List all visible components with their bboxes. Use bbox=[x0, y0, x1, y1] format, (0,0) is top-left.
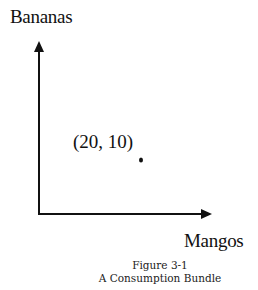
y-axis-arrow-icon bbox=[34, 41, 44, 52]
caption-title: Figure 3-1 bbox=[70, 259, 250, 272]
caption-subtitle: A Consumption Bundle bbox=[70, 272, 250, 285]
x-axis-arrow-icon bbox=[201, 209, 212, 219]
data-point bbox=[139, 158, 143, 163]
point-label: (20, 10) bbox=[73, 131, 133, 153]
x-axis-label: Mangos bbox=[184, 230, 243, 252]
figure-caption: Figure 3-1 A Consumption Bundle bbox=[70, 259, 250, 285]
